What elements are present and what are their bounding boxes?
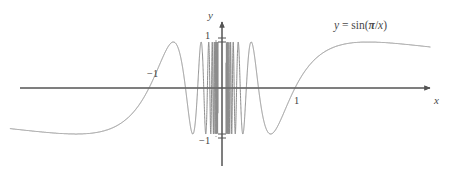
figure-sin-pi-over-x: y x 1 −1 −1 1 y = sin(π/x) — [0, 0, 453, 175]
equation-fn: sin( — [351, 19, 368, 31]
equation-close: ) — [383, 19, 387, 31]
x-root-label-negative-one: −1 — [147, 69, 158, 80]
x-root-label-positive-one: 1 — [294, 96, 299, 107]
y-tick-label-negative-one: −1 — [199, 136, 210, 147]
y-tick-label-positive-one: 1 — [205, 31, 210, 42]
equation-label: y = sin(π/x) — [334, 20, 387, 32]
y-axis-label: y — [208, 10, 213, 21]
x-axis-label: x — [434, 95, 439, 106]
